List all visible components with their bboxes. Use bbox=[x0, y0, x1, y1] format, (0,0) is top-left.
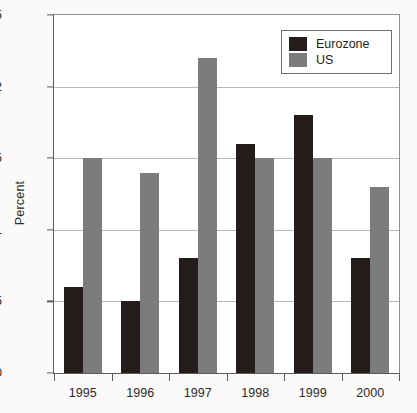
x-axis-tick-mark bbox=[169, 374, 170, 381]
bar-us-1997 bbox=[198, 58, 217, 373]
y-axis-tick-label: 2 bbox=[0, 80, 2, 94]
x-axis-tick-label-2000: 2000 bbox=[340, 386, 400, 400]
bar-us-2000 bbox=[370, 187, 389, 373]
bar-eurozone-1997 bbox=[179, 258, 198, 373]
x-axis-tick-label-1996: 1996 bbox=[110, 386, 170, 400]
bar-us-1995 bbox=[83, 158, 102, 373]
bar-group bbox=[179, 15, 217, 373]
x-axis-tick-label-1997: 1997 bbox=[168, 386, 228, 400]
bar-eurozone-1996 bbox=[121, 301, 140, 373]
bar-eurozone-1995 bbox=[64, 287, 83, 373]
y-axis-tick-label: 2.5 bbox=[0, 8, 2, 22]
bar-group bbox=[121, 15, 159, 373]
y-axis-tick-label: 0 bbox=[0, 366, 2, 380]
bar-us-1996 bbox=[140, 173, 159, 374]
x-axis-tick-mark bbox=[399, 374, 400, 381]
y-axis-tick-label: 0.5 bbox=[0, 294, 2, 308]
bar-eurozone-2000 bbox=[351, 258, 370, 373]
x-axis-tick-mark bbox=[112, 374, 113, 381]
bar-eurozone-1999 bbox=[294, 115, 313, 373]
x-axis-tick-label-1998: 1998 bbox=[225, 386, 285, 400]
x-axis-tick-mark bbox=[227, 374, 228, 381]
bar-group bbox=[236, 15, 274, 373]
legend: Eurozone US bbox=[281, 30, 392, 74]
legend-item-us: US bbox=[289, 52, 385, 68]
grouped-bar-chart: Percent 00.511.522.5 1995199619971998199… bbox=[0, 0, 417, 413]
bar-group bbox=[64, 15, 102, 373]
legend-label-eurozone: Eurozone bbox=[316, 37, 370, 51]
bar-us-1998 bbox=[255, 158, 274, 373]
bar-us-1999 bbox=[313, 158, 332, 373]
y-axis-title: Percent bbox=[13, 163, 27, 243]
y-axis-tick-label: 1 bbox=[0, 223, 2, 237]
x-axis-tick-mark bbox=[342, 374, 343, 381]
x-axis-tick-label-1999: 1999 bbox=[283, 386, 343, 400]
legend-item-eurozone: Eurozone bbox=[289, 36, 385, 52]
y-axis-tick-label: 1.5 bbox=[0, 151, 2, 165]
legend-swatch-eurozone bbox=[289, 37, 307, 51]
x-axis-tick-mark bbox=[284, 374, 285, 381]
bar-eurozone-1998 bbox=[236, 144, 255, 373]
legend-label-us: US bbox=[316, 53, 333, 67]
x-axis-tick-label-1995: 1995 bbox=[53, 386, 113, 400]
legend-swatch-us bbox=[289, 53, 307, 67]
x-axis-tick-mark bbox=[54, 374, 55, 381]
